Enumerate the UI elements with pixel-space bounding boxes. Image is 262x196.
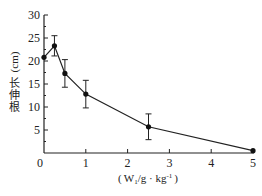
ylabel-char-1: 伸 — [9, 89, 20, 102]
data-point — [62, 71, 67, 76]
y-tick-label: 30 — [28, 8, 40, 22]
x-tick-label: 3 — [166, 156, 172, 170]
x-tick-label: 1 — [83, 156, 89, 170]
x-tick-label: 2 — [125, 156, 131, 170]
x-ticks: 012345 — [37, 149, 256, 170]
error-bars — [51, 36, 151, 140]
y-axis-title: 根 伸 长 (cm) — [8, 51, 21, 114]
y-tick-label: 20 — [28, 54, 40, 68]
y-tick-label: 15 — [28, 77, 40, 91]
y-tick-label: 25 — [28, 31, 40, 45]
ylabel-char-0: 根 — [9, 100, 20, 114]
ylabel-unit: (cm) — [8, 51, 21, 72]
line-chart: 51015202530 012345 根 伸 长 (cm) (W1/g · kg… — [0, 0, 262, 196]
y-tick-label: 5 — [34, 123, 40, 137]
y-ticks: 51015202530 — [28, 8, 48, 142]
data-point — [52, 43, 57, 48]
x-axis-title: (W1/g · kg-1) — [118, 172, 178, 186]
y-tick-label: 10 — [28, 100, 40, 114]
x-tick-label: 5 — [250, 156, 256, 170]
x-tick-label: 0 — [37, 156, 43, 170]
data-point — [83, 92, 88, 97]
data-point — [41, 55, 46, 60]
x-tick-label: 4 — [208, 156, 214, 170]
data-point — [146, 124, 151, 129]
ylabel-char-2: 长 — [9, 77, 20, 90]
data-point — [250, 148, 255, 153]
